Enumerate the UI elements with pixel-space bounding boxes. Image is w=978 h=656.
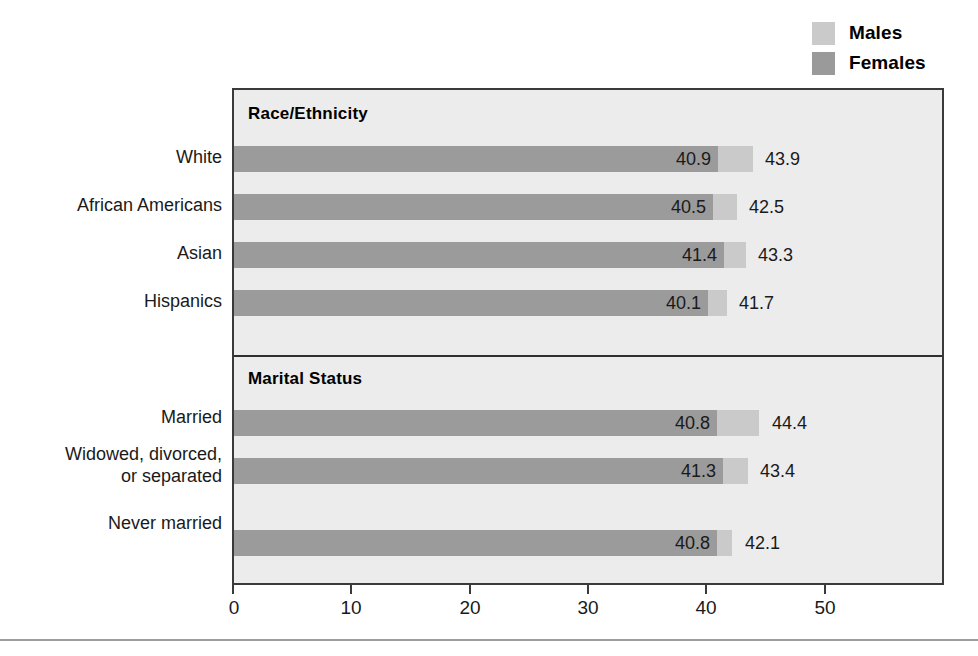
section-divider <box>234 355 942 357</box>
bar-value-female: 40.8 <box>675 413 717 434</box>
category-label-white: White <box>0 146 222 168</box>
bar-row-white: 40.9 <box>234 146 753 172</box>
bar-row-african-americans: 40.5 <box>234 194 737 220</box>
bar-value-total-african-americans: 42.5 <box>749 194 784 220</box>
section-title-race-ethnicity: Race/Ethnicity <box>248 104 368 124</box>
category-label-african-americans: African Americans <box>0 194 222 216</box>
bar-segment-female: 40.1 <box>234 290 708 316</box>
x-axis-tick-0-mark <box>232 585 234 594</box>
bar-segment-male <box>724 242 746 268</box>
legend-item-females: Females <box>812 48 978 78</box>
bar-value-female: 41.3 <box>681 461 723 482</box>
category-label-never-married: Never married <box>0 512 222 534</box>
x-axis-tick-label-50: 50 <box>814 597 835 619</box>
bar-row-widowed-divorced-separated: 41.3 <box>234 458 748 484</box>
x-axis-tick-50-mark <box>824 585 826 594</box>
legend-label-females: Females <box>849 52 926 74</box>
bar-segment-female: 40.9 <box>234 146 718 172</box>
category-label-widowed-divorced-separated: Widowed, divorced, or separated <box>0 443 222 487</box>
x-axis-tick-label-40: 40 <box>695 597 716 619</box>
bar-value-total-hispanics: 41.7 <box>739 290 774 316</box>
bar-row-never-married: 40.8 <box>234 530 732 556</box>
x-axis-tick-label-20: 20 <box>459 597 480 619</box>
bar-value-female: 41.4 <box>682 245 724 266</box>
bar-segment-male <box>723 458 748 484</box>
x-axis-tick-10-mark <box>350 585 352 594</box>
x-axis-tick-label-0: 0 <box>229 597 240 619</box>
chart-legend: Males Females <box>812 18 978 78</box>
x-axis-tick-20-mark <box>469 585 471 594</box>
bar-segment-female: 41.3 <box>234 458 723 484</box>
category-label-hispanics: Hispanics <box>0 290 222 312</box>
bar-value-female: 40.9 <box>676 149 718 170</box>
bar-row-married: 40.8 <box>234 410 759 436</box>
x-axis-tick-label-30: 30 <box>577 597 598 619</box>
bar-segment-male <box>717 410 759 436</box>
bar-segment-female: 40.8 <box>234 530 717 556</box>
category-label-asian: Asian <box>0 242 222 264</box>
bar-segment-male <box>708 290 727 316</box>
bar-value-total-never-married: 42.1 <box>745 530 780 556</box>
bar-segment-female: 40.8 <box>234 410 717 436</box>
bar-value-female: 40.8 <box>675 533 717 554</box>
legend-label-males: Males <box>849 22 902 44</box>
bar-value-total-widowed-divorced-separated: 43.4 <box>760 458 795 484</box>
bar-row-asian: 41.4 <box>234 242 746 268</box>
x-axis-tick-label-10: 10 <box>340 597 361 619</box>
footer-divider <box>0 639 978 641</box>
bar-segment-male <box>718 146 753 172</box>
bar-value-total-white: 43.9 <box>765 146 800 172</box>
bar-value-female: 40.5 <box>671 197 713 218</box>
x-axis: 0 10 20 30 40 50 <box>232 585 944 625</box>
x-axis-tick-30-mark <box>587 585 589 594</box>
legend-swatch-females-icon <box>812 52 835 75</box>
bar-segment-male <box>713 194 737 220</box>
bar-segment-female: 40.5 <box>234 194 713 220</box>
category-label-married: Married <box>0 406 222 428</box>
category-axis-labels: White African Americans Asian Hispanics … <box>0 88 222 585</box>
legend-item-males: Males <box>812 18 978 48</box>
chart-plot-area: Race/Ethnicity Marital Status 40.9 43.9 … <box>232 88 944 585</box>
bar-segment-female: 41.4 <box>234 242 724 268</box>
bar-value-total-asian: 43.3 <box>758 242 793 268</box>
bar-row-hispanics: 40.1 <box>234 290 727 316</box>
bar-value-female: 40.1 <box>666 293 708 314</box>
section-title-marital-status: Marital Status <box>248 369 362 389</box>
x-axis-tick-40-mark <box>705 585 707 594</box>
bar-segment-male <box>717 530 732 556</box>
bar-value-total-married: 44.4 <box>772 410 807 436</box>
legend-swatch-males-icon <box>812 22 835 45</box>
